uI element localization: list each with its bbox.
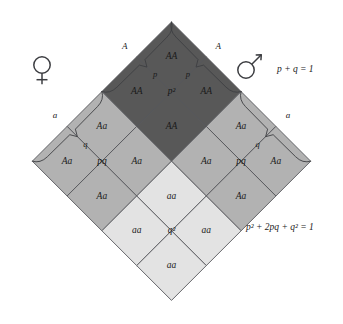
male-p-label: p — [185, 69, 190, 79]
punnett-cell-label: AA — [130, 86, 143, 96]
punnett-cell-label: AA — [165, 51, 178, 61]
punnett-cell-label: AA — [165, 121, 178, 131]
punnett-cell-group: AAAAAaAaAAAAAaAaAaAaaaaaAaAaaaaa — [32, 22, 310, 300]
male-symbol — [238, 55, 261, 78]
female-allele-a: a — [53, 110, 58, 120]
quadrant-center-label: q² — [168, 225, 176, 235]
punnett-cell-label: Aa — [235, 121, 247, 131]
punnett-cell-label: aa — [202, 225, 212, 235]
punnett-cell-label: Aa — [61, 156, 73, 166]
male-symbol-circle — [238, 62, 254, 78]
male-allele-a: a — [286, 110, 291, 120]
genotype-frequency-equation: p² + 2pq + q² = 1 — [245, 222, 314, 232]
quadrant-center-label: p² — [167, 86, 176, 96]
male-q-label: q — [255, 139, 260, 149]
punnett-square-diagram: AAAAAaAaAAAAAaAaAaAaaaaaAaAaaaaa p²pqpqq… — [0, 0, 343, 324]
female-symbol — [34, 57, 50, 84]
punnett-cell-label: AA — [199, 86, 212, 96]
punnett-cell-label: Aa — [130, 156, 142, 166]
punnett-cell-label: Aa — [96, 121, 108, 131]
punnett-cell-label: aa — [167, 191, 177, 201]
quadrant-center-label: pq — [96, 156, 107, 166]
punnett-cell-label: Aa — [96, 191, 108, 201]
allele-frequency-equation: p + q = 1 — [276, 64, 314, 74]
diagram-canvas: AAAAAaAaAAAAAaAaAaAaaaaaAaAaaaaa p²pqpqq… — [0, 0, 343, 324]
male-allele-A: A — [215, 41, 222, 51]
punnett-cell-label: aa — [167, 260, 177, 270]
female-allele-A: A — [121, 41, 128, 51]
female-symbol-circle — [34, 57, 50, 73]
punnett-cell-label: Aa — [235, 191, 247, 201]
punnett-cell-label: Aa — [270, 156, 282, 166]
female-q-label: q — [83, 139, 88, 149]
punnett-cell-label: aa — [132, 225, 142, 235]
male-symbol-arrow-shaft — [252, 55, 262, 65]
quadrant-center-label: pq — [235, 156, 246, 166]
female-p-label: p — [152, 69, 157, 79]
punnett-cell-label: Aa — [200, 156, 212, 166]
